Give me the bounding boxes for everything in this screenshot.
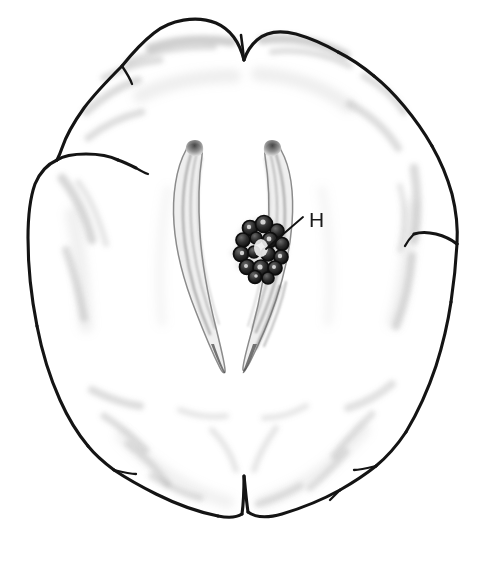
label-h-text: H xyxy=(309,208,324,231)
brain-axial-figure: H xyxy=(0,0,488,566)
